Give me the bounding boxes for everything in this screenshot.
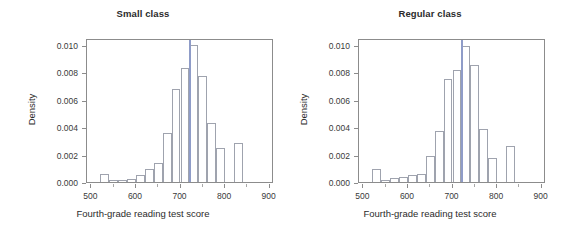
y-tick bbox=[82, 73, 86, 74]
histogram-bar bbox=[390, 178, 399, 182]
y-tick bbox=[82, 156, 86, 157]
y-tick bbox=[354, 128, 358, 129]
x-axis-title-small-class: Fourth-grade reading test score bbox=[0, 208, 286, 219]
plot-inner-regular-class bbox=[359, 40, 544, 182]
y-tick bbox=[354, 73, 358, 74]
histogram-bar bbox=[488, 158, 497, 182]
panel-title-regular-class: Regular class bbox=[287, 8, 573, 19]
x-minor-tick bbox=[246, 184, 247, 187]
histogram-bar bbox=[426, 156, 435, 182]
x-tick bbox=[180, 184, 181, 188]
histogram-bar bbox=[399, 177, 408, 182]
histogram-bar bbox=[234, 143, 243, 182]
x-tick bbox=[269, 184, 270, 188]
histogram-bar bbox=[163, 133, 172, 182]
x-minor-tick bbox=[385, 184, 386, 187]
x-tick bbox=[362, 184, 363, 188]
y-tick-label: 0.000 bbox=[40, 178, 78, 188]
histogram-bar bbox=[417, 174, 426, 183]
plot-area-regular-class bbox=[358, 39, 545, 183]
x-tick-label: 900 bbox=[533, 191, 547, 201]
x-tick-label: 600 bbox=[128, 191, 142, 201]
mean-reference-line bbox=[461, 40, 463, 182]
x-tick bbox=[452, 184, 453, 188]
x-minor-tick bbox=[157, 184, 158, 187]
panel-title-small-class: Small class bbox=[0, 8, 286, 19]
y-tick bbox=[354, 156, 358, 157]
y-tick-label: 0.002 bbox=[40, 151, 78, 161]
histogram-bar bbox=[372, 169, 381, 182]
x-tick bbox=[541, 184, 542, 188]
panel-small-class: Small class 0.0000.0020.0040.0060.0080.0… bbox=[0, 0, 286, 239]
mean-reference-line bbox=[189, 40, 191, 182]
histogram-bar bbox=[172, 89, 181, 182]
y-tick bbox=[354, 183, 358, 184]
histogram-bar bbox=[100, 174, 109, 182]
y-tick-label: 0.002 bbox=[312, 151, 350, 161]
y-tick bbox=[82, 128, 86, 129]
y-tick-label: 0.000 bbox=[312, 178, 350, 188]
x-tick bbox=[135, 184, 136, 188]
x-minor-tick bbox=[474, 184, 475, 187]
y-tick bbox=[354, 46, 358, 47]
x-tick-label: 500 bbox=[83, 191, 97, 201]
histogram-bar bbox=[506, 146, 515, 182]
x-tick bbox=[90, 184, 91, 188]
y-tick bbox=[354, 101, 358, 102]
x-minor-tick bbox=[429, 184, 430, 187]
histogram-bar bbox=[109, 180, 118, 182]
histogram-bar bbox=[470, 65, 479, 182]
y-tick-label: 0.010 bbox=[312, 41, 350, 51]
histogram-bar bbox=[136, 175, 145, 182]
histogram-bar bbox=[207, 123, 216, 182]
histogram-bar bbox=[118, 180, 127, 182]
histogram-bar bbox=[444, 79, 453, 182]
y-axis-title-small-class: Density bbox=[26, 70, 37, 150]
y-tick-label: 0.006 bbox=[312, 96, 350, 106]
y-tick-label: 0.006 bbox=[40, 96, 78, 106]
y-tick-label: 0.010 bbox=[40, 41, 78, 51]
histogram-bar bbox=[381, 180, 390, 182]
histogram-bar bbox=[408, 175, 417, 182]
y-tick bbox=[82, 101, 86, 102]
x-tick-label: 600 bbox=[400, 191, 414, 201]
histogram-bar bbox=[435, 131, 444, 182]
y-tick bbox=[82, 183, 86, 184]
x-minor-tick bbox=[202, 184, 203, 187]
histogram-bar bbox=[154, 163, 163, 182]
panel-regular-class: Regular class 0.0000.0020.0040.0060.0080… bbox=[287, 0, 573, 239]
x-axis-title-regular-class: Fourth-grade reading test score bbox=[287, 208, 573, 219]
y-axis-title-regular-class: Density bbox=[298, 70, 309, 150]
x-tick bbox=[407, 184, 408, 188]
plot-inner-small-class bbox=[87, 40, 272, 182]
histogram-bar bbox=[145, 169, 154, 182]
y-tick bbox=[82, 46, 86, 47]
x-tick-label: 800 bbox=[217, 191, 231, 201]
x-tick-label: 700 bbox=[172, 191, 186, 201]
x-tick-label: 700 bbox=[444, 191, 458, 201]
x-minor-tick bbox=[113, 184, 114, 187]
x-minor-tick bbox=[518, 184, 519, 187]
x-tick-label: 500 bbox=[355, 191, 369, 201]
histogram-bar bbox=[479, 129, 488, 182]
y-tick-label: 0.004 bbox=[312, 123, 350, 133]
figure-container: Small class 0.0000.0020.0040.0060.0080.0… bbox=[0, 0, 573, 239]
plot-area-small-class bbox=[86, 39, 273, 183]
x-tick bbox=[496, 184, 497, 188]
histogram-bar bbox=[216, 148, 225, 182]
x-tick-label: 800 bbox=[489, 191, 503, 201]
x-tick bbox=[224, 184, 225, 188]
histogram-bar bbox=[198, 76, 207, 182]
histogram-bar bbox=[127, 179, 136, 182]
y-tick-label: 0.008 bbox=[40, 68, 78, 78]
x-tick-label: 900 bbox=[261, 191, 275, 201]
y-tick-label: 0.008 bbox=[312, 68, 350, 78]
y-tick-label: 0.004 bbox=[40, 123, 78, 133]
